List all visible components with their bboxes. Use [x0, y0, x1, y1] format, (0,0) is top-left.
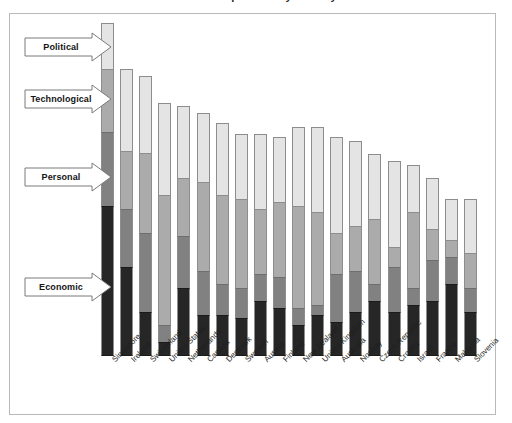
legend-callout-political[interactable]: Political	[24, 32, 112, 62]
plot-area: SingaporeIrelandSwitzerlandUnited States…	[10, 14, 497, 416]
plot-frame: SingaporeIrelandSwitzerlandUnited States…	[9, 13, 496, 415]
legend-callout-label: Economic	[24, 272, 98, 302]
page-title: Index components by country	[175, 0, 337, 2]
legend-callout-label: Personal	[24, 162, 98, 192]
legend-callout-label: Political	[24, 32, 98, 62]
legend-callouts: PoliticalTechnologicalPersonalEconomic	[10, 14, 497, 416]
figure-title-sliver: Index components by country	[0, 0, 512, 11]
stacked-bar-chart-figure: Index components by country SingaporeIre…	[0, 0, 512, 423]
legend-callout-economic[interactable]: Economic	[24, 272, 112, 302]
legend-callout-label: Technological	[24, 84, 98, 114]
legend-callout-technological[interactable]: Technological	[24, 84, 112, 114]
legend-callout-personal[interactable]: Personal	[24, 162, 112, 192]
